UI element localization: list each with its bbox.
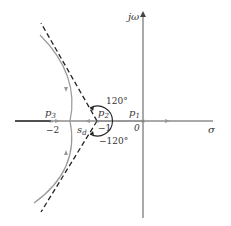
pole-p2-value: −1 — [98, 123, 111, 133]
imag-axis-label: jω — [126, 11, 139, 22]
real-axis-label: σ — [208, 124, 216, 135]
pole-p2-label: p2 — [98, 107, 109, 120]
arrow-real-mid-icon — [85, 119, 90, 123]
pole-p3-label: p3 — [45, 107, 56, 120]
pole-p3-value: −2 — [46, 125, 59, 135]
arrow-lower-branch-icon — [64, 150, 68, 155]
angle-lower-label: −120° — [99, 136, 128, 146]
breakaway-label: sd — [77, 124, 87, 137]
arrow-upper-branch-icon — [64, 87, 68, 92]
pole-p1-label: p1 — [129, 107, 140, 120]
pole-p1-marker: × — [141, 117, 146, 126]
root-locus-diagram: × × × jω σ p3 −2 p2 −1 p1 0 sd 120° −120… — [0, 0, 231, 226]
arrow-real-right-icon — [165, 119, 170, 123]
pole-p1-value: 0 — [134, 123, 140, 133]
angle-upper-label: 120° — [106, 96, 128, 106]
